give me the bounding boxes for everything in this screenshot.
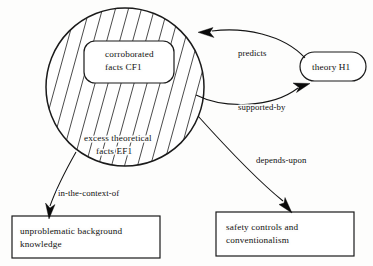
edge-label-predicts: predicts	[238, 48, 267, 58]
excess-theoretical-line2: facts EF1	[96, 146, 133, 156]
edge-label-in-the-context-of: in-the-context-of	[58, 188, 119, 198]
edge-label-supported-by: supported-by	[238, 102, 286, 112]
diagram-canvas: corroborated facts CF1 excess theoretica…	[0, 0, 373, 266]
excess-theoretical-line1: excess theoretical	[84, 133, 152, 143]
safety-controls-line2: conventionalism	[226, 235, 289, 245]
corroborated-facts-line2: facts CF1	[105, 62, 142, 72]
safety-controls-line1: safety controls and	[226, 222, 299, 232]
hatched-region	[18, 0, 252, 175]
theory-h1-label: theory H1	[312, 62, 351, 72]
edge-label-depends-upon: depends-upon	[256, 155, 307, 165]
background-knowledge-line2: knowledge	[20, 239, 62, 249]
corroborated-facts-line1: corroborated	[105, 49, 154, 59]
background-knowledge-line1: unproblematic background	[20, 226, 123, 236]
node-safety-controls	[216, 212, 354, 256]
edge-in-the-context-of	[46, 152, 77, 219]
diagram-svg: corroborated facts CF1 excess theoretica…	[0, 0, 373, 266]
node-unproblematic-background-knowledge	[12, 216, 160, 258]
